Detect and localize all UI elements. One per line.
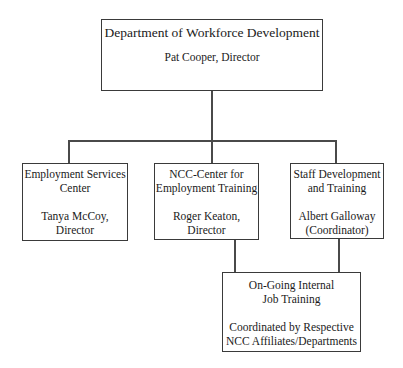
connector-ncc-to-ojt bbox=[234, 240, 236, 272]
node-person: Pat Cooper, Director bbox=[102, 50, 322, 64]
org-node-staff-development-training: Staff Development and Training Albert Ga… bbox=[290, 163, 384, 239]
node-title: Department of Workforce Development bbox=[102, 26, 322, 40]
node-note-line2: NCC Affiliates/Departments bbox=[223, 334, 360, 348]
node-title-line1: Employment Services bbox=[23, 167, 127, 181]
connector-to-sdt bbox=[335, 140, 337, 163]
node-person-line2: (Coordinator) bbox=[291, 223, 383, 237]
connector-to-esc bbox=[68, 140, 70, 163]
node-title-line2: Employment Training bbox=[155, 181, 258, 195]
node-person-line1: Tanya McCoy, bbox=[23, 209, 127, 223]
node-title-line1: NCC-Center for bbox=[155, 167, 258, 181]
node-title-line2: and Training bbox=[291, 181, 383, 195]
node-person-line1: Roger Keaton, bbox=[155, 209, 258, 223]
connector-root-down bbox=[211, 91, 213, 141]
connector-horizontal-bus bbox=[68, 140, 336, 142]
node-note-line1: Coordinated by Respective bbox=[223, 320, 360, 334]
org-node-department: Department of Workforce Development Pat … bbox=[101, 19, 323, 91]
connector-sdt-to-ojt bbox=[338, 239, 340, 272]
node-title-line1: Staff Development bbox=[291, 167, 383, 181]
node-title-line1: On-Going Internal bbox=[223, 278, 360, 292]
org-node-employment-services-center: Employment Services Center Tanya McCoy, … bbox=[22, 163, 128, 241]
node-person-line2: Director bbox=[155, 223, 258, 237]
node-title-line2: Center bbox=[23, 181, 127, 195]
org-node-ongoing-internal-job-training: On-Going Internal Job Training Coordinat… bbox=[222, 272, 361, 352]
node-person-line1: Albert Galloway bbox=[291, 209, 383, 223]
node-title-line2: Job Training bbox=[223, 292, 360, 306]
connector-to-ncc bbox=[211, 140, 213, 163]
node-person-line2: Director bbox=[23, 223, 127, 237]
org-node-ncc-center-employment-training: NCC-Center for Employment Training Roger… bbox=[154, 163, 259, 240]
